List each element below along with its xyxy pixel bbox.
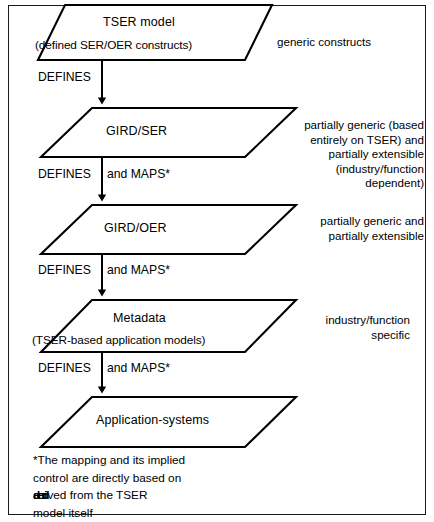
footnote-line-3: andderived from the TSER — [33, 487, 263, 505]
annotation-tser-model: generic constructs — [277, 35, 422, 50]
footnote-line-1: *The mapping and its implied — [33, 452, 263, 470]
edge-label-and-maps-3: and MAPS* — [107, 263, 170, 277]
node-subtitle-tser-model: (defined SER/OER constructs) — [35, 38, 192, 52]
annotation-line: partially extensible — [272, 229, 424, 244]
node-title-application-systems: Application-systems — [96, 413, 209, 427]
footnote-line-2: control are directly based on — [33, 470, 263, 488]
annotation-line: partially generic (based — [272, 118, 424, 133]
edge-label-defines-2: DEFINES — [38, 167, 91, 181]
annotation-line: (industry/function — [272, 162, 424, 177]
annotation-line: entirely on TSER) and — [272, 133, 424, 148]
annotation-line: generic constructs — [277, 35, 422, 50]
annotation-line: partially extensible — [272, 147, 424, 162]
node-subtitle-metadata: (TSER-based application models) — [32, 333, 205, 347]
edge-label-and-maps-2: and MAPS* — [107, 167, 170, 181]
annotation-gird-ser: partially generic (based entirely on TSE… — [272, 118, 424, 191]
annotation-line: industry/function — [272, 313, 410, 328]
annotation-line: partially generic and — [272, 214, 424, 229]
node-shape-gird-oer — [41, 205, 296, 254]
node-title-metadata: Metadata — [113, 311, 166, 325]
edge-label-and-maps-4: and MAPS* — [107, 361, 170, 375]
footnote-overstruck-text: andderi — [33, 487, 47, 505]
edge-label-defines-3: DEFINES — [38, 263, 91, 277]
node-title-gird-oer: GIRD/OER — [104, 221, 167, 235]
node-title-tser-model: TSER model — [103, 15, 175, 29]
annotation-metadata: industry/function specific — [272, 313, 410, 342]
annotation-gird-oer: partially generic and partially extensib… — [272, 214, 424, 243]
annotation-line: dependent) — [272, 176, 424, 191]
footnote-line-4: model itself — [33, 505, 263, 522]
footnote-struck-over: deri — [33, 487, 45, 505]
node-shape-gird-ser — [41, 108, 296, 157]
edge-label-defines-4: DEFINES — [38, 361, 91, 375]
edge-label-defines-1: DEFINES — [38, 70, 91, 84]
footnote-block: *The mapping and its implied control are… — [33, 452, 263, 522]
footnote-line-3-rest: ved from the TSER — [47, 488, 147, 502]
figure-canvas: TSER model (defined SER/OER constructs) … — [0, 0, 434, 522]
node-title-gird-ser: GIRD/SER — [106, 124, 167, 138]
annotation-line: specific — [272, 328, 410, 343]
